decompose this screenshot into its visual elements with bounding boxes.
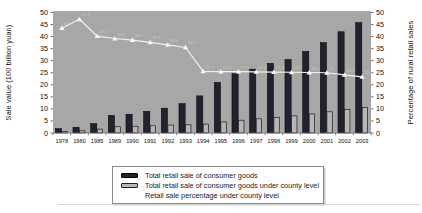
legend-label: Total retail sale of consumer goods unde… xyxy=(145,181,319,190)
legend-label: Retail sale percentage under county leve… xyxy=(145,191,279,200)
total-retail-bar xyxy=(232,74,238,133)
line-point-label: 39.2 xyxy=(117,32,126,37)
left-y-tick-label: 15 xyxy=(40,92,48,101)
right-y-tick-label: 15 xyxy=(376,92,384,101)
x-tick-label: 1999 xyxy=(285,138,298,144)
line-point-label: 35.5 xyxy=(188,40,197,45)
total-retail-bar xyxy=(179,104,185,133)
line-point-label: 25.6 xyxy=(205,64,214,69)
x-tick-label: 1996 xyxy=(232,138,245,144)
dark-bar-swatch-icon xyxy=(121,173,138,178)
x-axis-labels: 1978198019851989199019911992199319941995… xyxy=(53,133,371,144)
right-y-tick-label: 40 xyxy=(376,32,384,41)
total-retail-bar xyxy=(338,32,344,133)
line-point-label: 37.6 xyxy=(152,35,161,40)
x-tick-label: 1997 xyxy=(250,138,263,144)
legend-box: Total retail sale of consumer goods Tota… xyxy=(112,166,324,204)
county-retail-bar xyxy=(274,117,279,133)
line-point-label: 47.2 xyxy=(82,12,91,17)
x-tick-label: 1992 xyxy=(162,138,175,144)
total-retail-bar xyxy=(144,111,150,133)
line-point-label: 25 xyxy=(329,66,334,71)
total-retail-bar xyxy=(126,114,132,133)
right-y-tick-label: 20 xyxy=(376,80,384,89)
x-tick-label: 1993 xyxy=(179,138,192,144)
page-edge-artifact xyxy=(58,204,420,205)
county-retail-bar xyxy=(150,126,155,133)
total-retail-bar xyxy=(197,96,203,133)
county-retail-bar xyxy=(221,122,226,133)
x-tick-label: 1990 xyxy=(126,138,139,144)
county-retail-bar xyxy=(256,119,261,133)
legend-item-county-retail: Total retail sale of consumer goods unde… xyxy=(121,180,317,190)
x-tick-label: 1995 xyxy=(215,138,228,144)
right-y-tick-label: 0 xyxy=(376,129,380,138)
county-retail-bar xyxy=(309,114,314,133)
county-retail-bar xyxy=(133,126,138,133)
line-point-label: 25.4 xyxy=(258,65,267,70)
county-retail-bar xyxy=(327,112,332,133)
total-retail-bar xyxy=(73,127,79,133)
right-y-tick-label: 45 xyxy=(376,20,384,29)
left-y-tick-label: 10 xyxy=(40,104,48,113)
x-tick-label: 2001 xyxy=(321,138,334,144)
right-y-tick-label: 10 xyxy=(376,104,384,113)
county-retail-bar xyxy=(203,124,208,133)
line-point-label: 25.5 xyxy=(223,65,232,70)
total-retail-bar xyxy=(285,59,291,133)
left-y-tick-label: 40 xyxy=(40,32,48,41)
line-point-label: 24.1 xyxy=(347,68,356,73)
line-point-label: 25.3 xyxy=(276,65,285,70)
total-retail-bar xyxy=(91,124,97,133)
right-y-tick-label: 35 xyxy=(376,44,384,53)
right-y-tick-label: 25 xyxy=(376,68,384,77)
gray-bar-swatch-icon xyxy=(121,183,138,188)
right-y-tick-label: 50 xyxy=(376,8,384,17)
x-tick-label: 1980 xyxy=(73,138,86,144)
county-retail-bar xyxy=(292,116,297,133)
x-tick-label: 1994 xyxy=(197,138,210,144)
total-retail-bar xyxy=(161,108,167,133)
left-y-tick-label: 0 xyxy=(44,129,48,138)
legend-label: Total retail sale of consumer goods xyxy=(145,171,258,180)
x-tick-label: 2003 xyxy=(356,138,369,144)
legend-item-total-retail: Total retail sale of consumer goods xyxy=(121,170,317,180)
county-retail-bar xyxy=(168,125,173,133)
left-y-tick-label: 5 xyxy=(44,116,48,125)
x-tick-label: 1991 xyxy=(144,138,157,144)
right-y-tick-label: 5 xyxy=(376,116,380,125)
x-tick-label: 1985 xyxy=(91,138,104,144)
line-point-label: 23.3 xyxy=(364,70,373,75)
line-point-label: 43.5 xyxy=(64,21,73,26)
x-tick-label: 1989 xyxy=(109,138,122,144)
county-retail-bar xyxy=(186,125,191,133)
x-tick-label: 1978 xyxy=(56,138,69,144)
left-y-tick-label: 20 xyxy=(40,80,48,89)
county-retail-bar xyxy=(97,129,102,133)
total-retail-bar xyxy=(108,115,114,133)
total-retail-bar xyxy=(250,69,256,133)
left-y-tick-label: 30 xyxy=(40,56,48,65)
white-line-swatch-icon xyxy=(121,193,138,198)
line-point-label: 25.1 xyxy=(311,66,320,71)
county-retail-bar xyxy=(362,107,367,133)
left-y-tick-label: 35 xyxy=(40,44,48,53)
line-point-label: 25.2 xyxy=(294,65,303,70)
right-y-tick-label: 30 xyxy=(376,56,384,65)
left-y-tick-label: 45 xyxy=(40,20,48,29)
x-tick-label: 2000 xyxy=(303,138,316,144)
total-retail-bar xyxy=(214,82,220,133)
line-point-label: 38.5 xyxy=(135,33,144,38)
county-retail-bar xyxy=(239,120,244,133)
chart-canvas: 0055101015152020252530303535404045455050… xyxy=(0,0,422,152)
x-tick-label: 1998 xyxy=(268,138,281,144)
county-retail-bar xyxy=(345,110,350,133)
total-retail-bar xyxy=(55,129,61,133)
total-retail-bar xyxy=(320,43,326,133)
x-tick-label: 2002 xyxy=(338,138,351,144)
line-point-label: 40.2 xyxy=(99,29,108,34)
legend-item-percentage-line: Retail sale percentage under county leve… xyxy=(121,190,317,200)
line-point-label: 25.5 xyxy=(241,65,250,70)
county-retail-bar xyxy=(115,127,120,133)
left-y-tick-label: 50 xyxy=(40,8,48,17)
